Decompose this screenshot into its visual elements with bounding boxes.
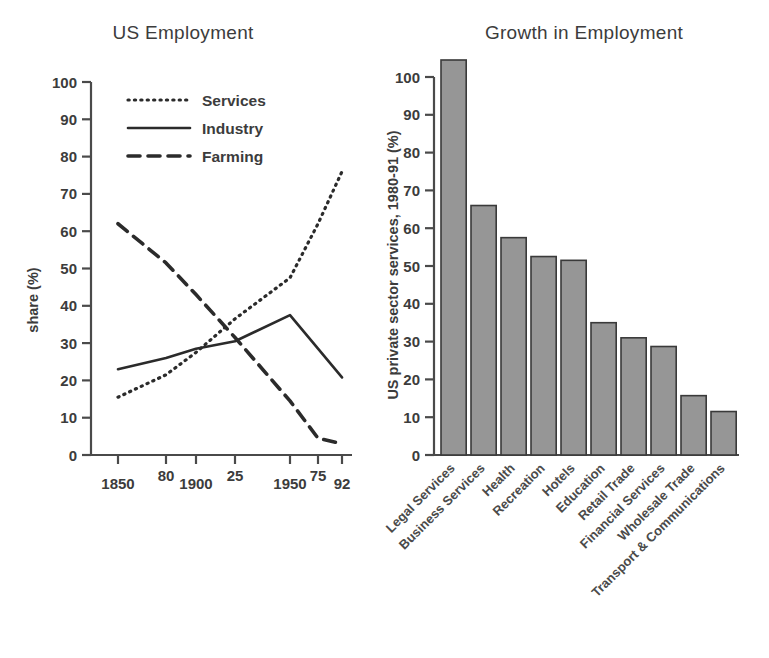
figure-canvas: US Employment 0102030405060708090100 185… (0, 0, 769, 658)
bar-recreation (531, 257, 556, 455)
y-tick-label: 100 (395, 69, 420, 86)
y-tick-label: 0 (412, 447, 420, 464)
x-tick-label: 25 (227, 467, 244, 484)
category-label-group: Legal ServicesBusiness ServicesHealthRec… (383, 460, 728, 599)
bar-hotels (561, 260, 586, 455)
bar-education (591, 323, 616, 455)
bar-financial-services (651, 347, 676, 455)
x-tick-label: 1900 (179, 475, 212, 492)
chart-panel-us-employment: US Employment 0102030405060708090100 185… (0, 0, 390, 658)
y-tick-label: 30 (403, 333, 420, 350)
bar-business-services (471, 206, 496, 455)
y-tick-label: 40 (60, 297, 77, 314)
y-axis-title-left: share (%) (25, 267, 41, 332)
growth-in-employment-plot: 0102030405060708090100 Legal ServicesBus… (379, 0, 769, 658)
y-tick-label: 10 (60, 409, 77, 426)
y-tick-label: 20 (403, 371, 420, 388)
y-tick-group: 0102030405060708090100 (52, 74, 91, 464)
chart-panel-growth-in-employment: Growth in Employment 0102030405060708090… (379, 0, 769, 658)
x-tick-label: 1850 (101, 475, 134, 492)
y-tick-label: 90 (403, 106, 420, 123)
y-axis-title-right: US private sector services, 1980-91 (%) (385, 130, 401, 399)
y-tick-label: 60 (403, 220, 420, 237)
x-tick-label: 1950 (273, 475, 306, 492)
bar-transport-communications (711, 412, 736, 455)
us-employment-plot: 0102030405060708090100 18508019002519507… (0, 0, 390, 658)
y-tick-label: 90 (60, 111, 77, 128)
y-tick-label: 60 (60, 223, 77, 240)
y-tick-label: 30 (60, 335, 77, 352)
bar-group (441, 60, 736, 455)
bar-retail-trade (621, 338, 646, 455)
series-line-farming (118, 224, 342, 444)
legend: ServicesIndustryFarming (128, 92, 266, 165)
y-tick-label: 70 (403, 182, 420, 199)
y-tick-label: 0 (69, 447, 77, 464)
y-tick-label: 70 (60, 185, 77, 202)
series-line-services (118, 172, 342, 398)
y-tick-label: 50 (403, 258, 420, 275)
y-tick-label: 20 (60, 372, 77, 389)
y-tick-label: 10 (403, 409, 420, 426)
bar-health (501, 238, 526, 455)
y-tick-label: 80 (403, 144, 420, 161)
legend-label-services: Services (202, 92, 266, 109)
y-tick-label: 80 (60, 148, 77, 165)
bar-legal-services (441, 60, 466, 455)
x-tick-label: 92 (334, 475, 351, 492)
series-group (118, 172, 342, 444)
legend-label-industry: Industry (202, 120, 264, 137)
y-tick-label: 100 (52, 74, 77, 91)
x-tick-group: 18508019002519507592 (101, 455, 350, 492)
y-tick-label: 40 (403, 295, 420, 312)
x-tick-label: 75 (310, 467, 327, 484)
bar-wholesale-trade (681, 396, 706, 455)
legend-label-farming: Farming (202, 148, 263, 165)
y-tick-label: 50 (60, 260, 77, 277)
x-tick-label: 80 (158, 467, 175, 484)
